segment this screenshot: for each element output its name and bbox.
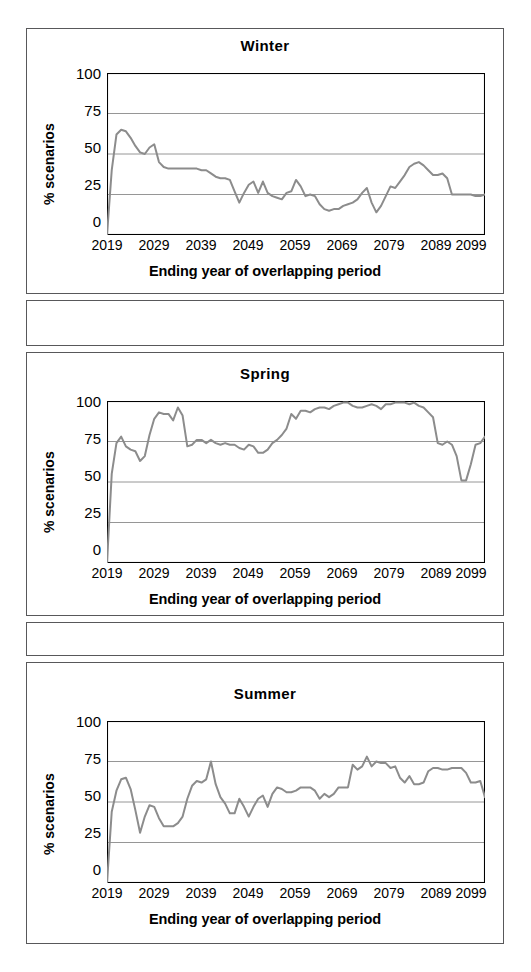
plot-svg-spring — [107, 401, 485, 563]
y-tick-25-spring: 25 — [53, 504, 101, 521]
x-axis-title-summer: Ending year of overlapping period — [27, 911, 503, 927]
plot-svg-winter — [107, 73, 485, 235]
panel-winter: Winter % scenarios 100 75 50 25 0 2019 2… — [26, 28, 504, 294]
plot-area-spring — [107, 401, 485, 563]
y-tick-75-winter: 75 — [53, 102, 101, 119]
panel-spacer-1 — [26, 300, 504, 346]
x-tick-2099-spring: 2099 — [439, 565, 503, 581]
plot-svg-summer — [107, 721, 485, 883]
panel-spacer-2 — [26, 622, 504, 656]
y-tick-25-winter: 25 — [53, 176, 101, 193]
y-tick-50-summer: 50 — [53, 787, 101, 804]
data-series-line — [107, 403, 485, 563]
y-tick-100-winter: 100 — [53, 65, 101, 82]
chart-title-summer: Summer — [27, 685, 503, 702]
x-tick-2099-summer: 2099 — [439, 885, 503, 901]
y-tick-75-spring: 75 — [53, 430, 101, 447]
y-tick-100-spring: 100 — [53, 393, 101, 410]
data-series-line — [107, 130, 485, 235]
y-tick-0-summer: 0 — [53, 861, 101, 878]
y-tick-75-summer: 75 — [53, 750, 101, 767]
y-tick-50-winter: 50 — [53, 139, 101, 156]
y-axis-label-summer: % scenarios — [41, 773, 57, 855]
figure-page: Winter % scenarios 100 75 50 25 0 2019 2… — [0, 0, 531, 972]
plot-area-summer — [107, 721, 485, 883]
y-tick-0-spring: 0 — [53, 541, 101, 558]
y-tick-0-winter: 0 — [53, 213, 101, 230]
y-tick-25-summer: 25 — [53, 824, 101, 841]
x-axis-title-spring: Ending year of overlapping period — [27, 591, 503, 607]
x-axis-title-winter: Ending year of overlapping period — [27, 263, 503, 279]
plot-area-winter — [107, 73, 485, 235]
chart-title-winter: Winter — [27, 37, 503, 54]
y-tick-50-spring: 50 — [53, 467, 101, 484]
chart-title-spring: Spring — [27, 365, 503, 382]
data-series-line — [107, 757, 485, 883]
panel-spring: Spring % scenarios 100 75 50 25 0 2019 2… — [26, 352, 504, 616]
y-tick-100-summer: 100 — [53, 713, 101, 730]
panel-summer: Summer % scenarios 100 75 50 25 0 2019 2… — [26, 662, 504, 944]
x-tick-2099-winter: 2099 — [439, 237, 503, 253]
